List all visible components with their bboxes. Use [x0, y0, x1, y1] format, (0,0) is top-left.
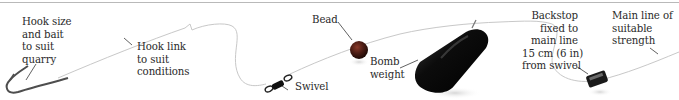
fishing-rig-diagram: Hook size and bait to suit quarry Hook l…	[0, 0, 679, 100]
swivel-icon	[264, 74, 292, 93]
label-main-line: Main line of suitable strength	[612, 10, 673, 48]
label-hook: Hook size and bait to suit quarry	[22, 16, 72, 66]
bead-icon	[349, 41, 369, 66]
label-swivel: Swivel	[295, 81, 328, 94]
label-backstop: Backstop fixed to main line 15 cm (6 in)…	[522, 10, 578, 73]
bomb-weight-icon	[415, 20, 488, 99]
label-hook-link: Hook link to suit conditions	[137, 41, 189, 79]
hook-icon	[7, 66, 68, 93]
backstop-icon	[586, 70, 612, 96]
label-bead: Bead	[312, 14, 338, 27]
label-bomb-weight: Bomb weight	[370, 56, 405, 81]
